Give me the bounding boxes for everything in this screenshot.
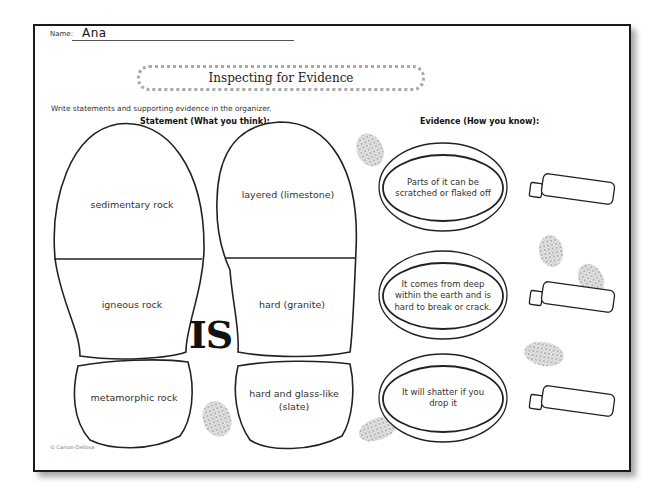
fingerprint-icon <box>198 397 237 440</box>
fingerprint-icon <box>351 129 389 171</box>
statement-cell[interactable]: hard and glass-like (slate) <box>242 376 346 426</box>
statement-cell[interactable]: layered (limestone) <box>226 170 350 220</box>
copyright-notice: © Carson-Dellosa <box>50 444 94 450</box>
statement-cell[interactable]: metamorphic rock <box>82 376 186 420</box>
statement-cell[interactable]: hard (granite) <box>232 280 352 330</box>
fingerprint-icon <box>522 339 566 370</box>
statement-cell[interactable]: igneous rock <box>62 280 202 330</box>
evidence-cell[interactable]: It comes from deep within the earth and … <box>393 268 493 324</box>
statement-cell[interactable]: sedimentary rock <box>62 180 202 230</box>
connector-word: IS <box>189 312 232 357</box>
evidence-cell[interactable]: Parts of it can be scratched or flaked o… <box>395 162 491 214</box>
fingerprint-icon <box>536 233 565 269</box>
evidence-cell[interactable]: It will shatter if you drop it <box>398 380 488 416</box>
